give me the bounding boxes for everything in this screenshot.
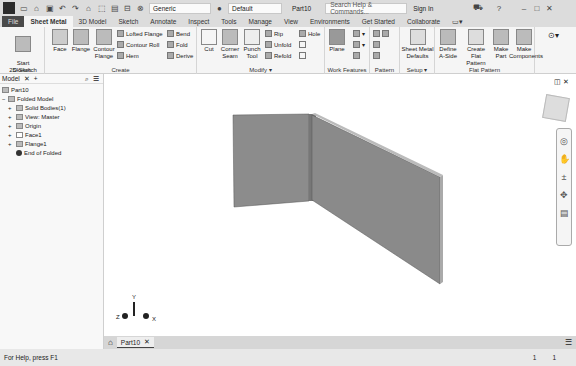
search-icon[interactable]: ⌕	[85, 75, 89, 83]
refold-button[interactable]: Refold	[265, 51, 291, 60]
close-icon[interactable]: ✕	[144, 338, 150, 346]
sheet-metal-defaults-icon	[410, 29, 426, 45]
sign-in-button[interactable]: Sign In	[413, 5, 433, 12]
modify-panel-menu[interactable]: Modify ▾	[197, 66, 324, 73]
sketch-pattern-button[interactable]	[373, 51, 382, 60]
make-components-button[interactable]: Make Components	[509, 29, 539, 60]
tab-tools[interactable]: Tools	[215, 16, 242, 27]
ribbon-options-button[interactable]: ⊙▾	[548, 31, 559, 40]
close-button[interactable]: ✕	[545, 4, 554, 13]
cut-button[interactable]: Cut	[199, 29, 219, 53]
cart-icon[interactable]: ⛟	[473, 4, 482, 13]
tab-sketch[interactable]: Sketch	[112, 16, 144, 27]
tab-view[interactable]: View	[278, 16, 304, 27]
make-part-button[interactable]: Make Part	[492, 29, 510, 60]
tree-item-flange1[interactable]: +Flange1	[2, 139, 101, 148]
new-icon[interactable]: ▭	[19, 4, 28, 13]
graphics-window[interactable]: ◫ ✕ Y Z X	[104, 74, 576, 336]
tree-item-view-master[interactable]: +View: Master	[2, 112, 101, 121]
panel-pattern: Pattern	[370, 27, 400, 74]
close-icon[interactable]: ✕	[24, 75, 30, 83]
menu-icon[interactable]: ☰	[93, 75, 99, 83]
contour-roll-button[interactable]: Contour Roll	[117, 40, 159, 49]
minimize-button[interactable]: –	[519, 4, 528, 13]
tree-item-origin[interactable]: +Origin	[2, 121, 101, 130]
rip-button[interactable]: Rip	[265, 29, 283, 38]
viewcube[interactable]	[542, 94, 570, 122]
hem-button[interactable]: Hem	[117, 51, 139, 60]
orbit-icon[interactable]: ✥	[558, 189, 570, 201]
face-button[interactable]: Face	[49, 29, 71, 53]
ucs-button[interactable]	[353, 51, 362, 60]
zoom-icon[interactable]: ±	[558, 171, 570, 183]
tab-inspect[interactable]: Inspect	[182, 16, 215, 27]
help-icon[interactable]: ?	[494, 4, 503, 13]
ribbon-display-toggle[interactable]: ▭▾	[446, 16, 469, 27]
flange-button[interactable]: Flange	[69, 29, 93, 53]
create-flat-pattern-button[interactable]: Create Flat Pattern	[461, 29, 491, 67]
tab-environments[interactable]: Environments	[304, 16, 356, 27]
define-a-side-button[interactable]: Define A-Side	[437, 29, 459, 60]
tab-get-started[interactable]: Get Started	[356, 16, 401, 27]
tree-item-end-of-folded[interactable]: End of Folded	[2, 148, 101, 157]
mirror-icon[interactable]	[382, 30, 389, 37]
document-tab-part10[interactable]: Part10 ✕	[117, 337, 154, 348]
contour-flange-button[interactable]: Contour Flange	[91, 29, 117, 60]
material-dropdown[interactable]: Generic	[149, 3, 211, 14]
home-icon[interactable]: ⌂	[108, 338, 113, 347]
tree-item-face1[interactable]: +Face1	[2, 130, 101, 139]
sheet-metal-defaults-button[interactable]: Sheet Metal Defaults	[400, 29, 435, 60]
punch-tool-button[interactable]: Punch Tool	[241, 29, 263, 60]
unfold-button[interactable]: Unfold	[265, 40, 291, 49]
corner-round-button[interactable]	[299, 40, 308, 49]
sketch-pattern-icon	[373, 52, 380, 59]
pan-icon[interactable]: ✋	[558, 153, 570, 165]
tab-annotate[interactable]: Annotate	[144, 16, 182, 27]
derive-button[interactable]: Derive	[167, 51, 193, 60]
sheet-metal-model[interactable]	[104, 74, 576, 336]
search-input[interactable]: Search Help & Commands...	[325, 3, 407, 14]
home-icon[interactable]: ⌂	[84, 4, 93, 13]
material-icon[interactable]: ⊗	[136, 4, 145, 13]
rectangular-pattern-button[interactable]	[373, 29, 391, 38]
tree-item-folded-model[interactable]: −Folded Model	[2, 94, 101, 103]
undo-icon[interactable]: ↶	[58, 4, 67, 13]
tab-file[interactable]: File	[2, 16, 24, 27]
document-title: Part10	[292, 5, 311, 12]
print-icon[interactable]: ▤	[110, 4, 119, 13]
lofted-flange-button[interactable]: Lofted Flange	[117, 29, 163, 38]
appearance-dropdown[interactable]: Default	[228, 3, 282, 14]
save-icon[interactable]: ▣	[45, 4, 54, 13]
steering-wheel-icon[interactable]: ◎	[558, 135, 570, 147]
add-tab-icon[interactable]: +	[34, 75, 38, 82]
circular-pattern-button[interactable]	[373, 40, 382, 49]
corner-chamfer-button[interactable]	[299, 51, 308, 60]
viewport-layout-icon[interactable]: ◫ ✕	[554, 78, 569, 86]
redo-icon[interactable]: ↷	[71, 4, 80, 13]
punch-tool-icon	[244, 29, 260, 45]
define-a-side-icon	[440, 29, 456, 45]
axis-button[interactable]: ▾	[353, 29, 365, 38]
setup-panel-menu[interactable]: Setup ▾	[400, 66, 434, 73]
measure-icon[interactable]: ⊟	[123, 4, 132, 13]
tab-manage[interactable]: Manage	[243, 16, 279, 27]
sketch-icon	[15, 36, 31, 52]
hole-button[interactable]: Hole	[299, 29, 320, 38]
bend-button[interactable]: Bend	[167, 29, 190, 38]
tab-3d-model[interactable]: 3D Model	[73, 16, 113, 27]
select-icon[interactable]: ⬚	[97, 4, 106, 13]
tabs-menu-icon[interactable]: ☰	[565, 338, 572, 347]
fold-button[interactable]: Fold	[167, 40, 188, 49]
tab-collaborate[interactable]: Collaborate	[401, 16, 446, 27]
look-at-icon[interactable]: ▤	[558, 207, 570, 219]
browser-tab-model[interactable]: Model	[2, 75, 20, 82]
corner-seam-button[interactable]: Corner Seam	[219, 29, 241, 60]
app-logo[interactable]	[3, 2, 15, 14]
tree-item-solid-bodies[interactable]: +Solid Bodies(1)	[2, 103, 101, 112]
plane-button[interactable]: Plane	[327, 29, 347, 53]
point-button[interactable]: ▾	[353, 40, 365, 49]
tab-sheet-metal[interactable]: Sheet Metal	[24, 16, 72, 27]
open-icon[interactable]: ⌂	[32, 4, 41, 13]
maximize-button[interactable]: □	[532, 4, 541, 13]
tree-item-part10[interactable]: Part10	[2, 85, 101, 94]
